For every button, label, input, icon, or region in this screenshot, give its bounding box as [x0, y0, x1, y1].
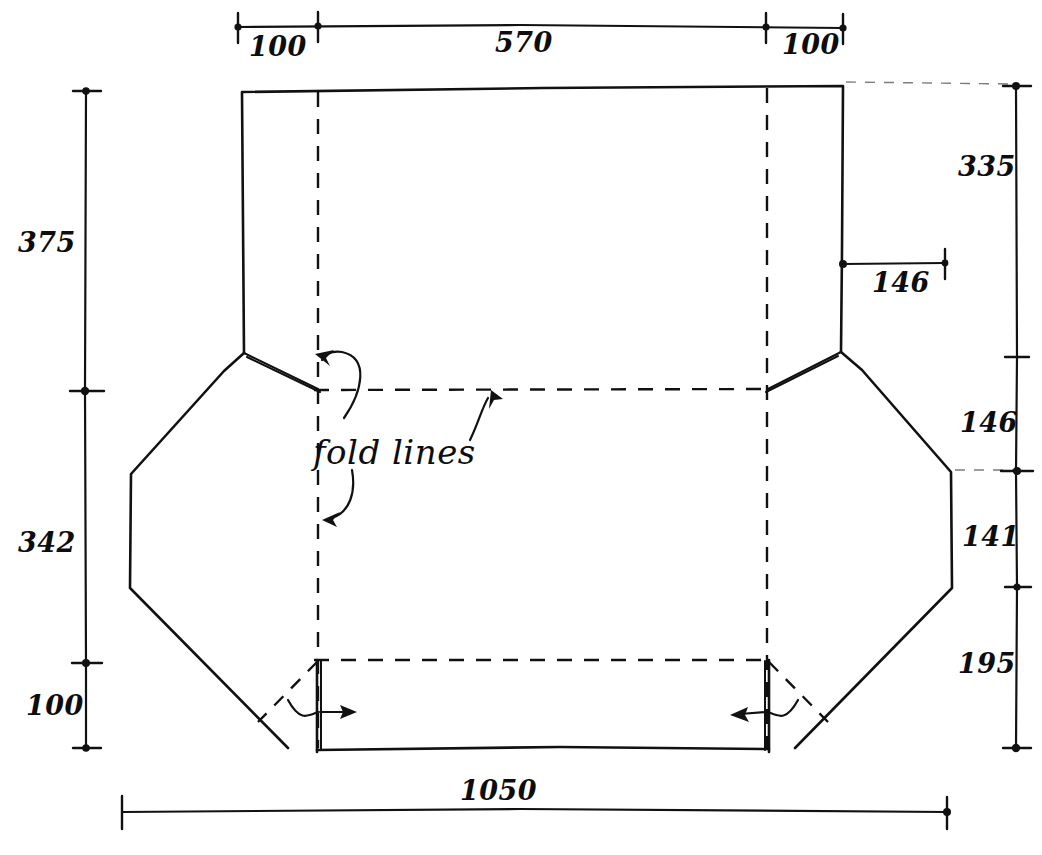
right-dim-extension-top [846, 82, 1014, 84]
wing-left-outline [130, 353, 288, 748]
fold-line-horizontal-upper [314, 389, 770, 390]
left-dim-dot-top [82, 87, 90, 95]
fold-line-diagonal-bottom-left [258, 662, 317, 722]
right-callout-dimension-line [843, 263, 945, 264]
notch-right-lower [766, 356, 838, 392]
bottom-dimension-line [122, 809, 947, 812]
left-dim-dot-mid-upper [81, 387, 89, 395]
fold-line-diagonal-bottom-right [769, 662, 828, 722]
dim-bottom-1050: 1050 [460, 775, 537, 806]
notch-left-upper [244, 353, 318, 389]
dim-left-375: 375 [18, 227, 76, 258]
right-callout-dot-left [839, 260, 847, 268]
dim-right-335: 335 [958, 151, 1016, 182]
left-dim-dot-mid-lower [82, 659, 90, 667]
dim-right-141: 141 [962, 521, 1020, 552]
fold-lines-leader-lower [332, 470, 353, 518]
right-callout-dot-right [942, 260, 949, 267]
bottom-right-fold-arrow-curve [768, 700, 798, 716]
fold-lines-label: fold lines [310, 432, 476, 472]
dim-top-right-100: 100 [782, 29, 840, 60]
technical-drawing-svg: fold lines 100 570 100 375 342 100 [0, 0, 1042, 855]
blank-outline-bottom-edge [317, 747, 769, 750]
fold-lines-arrowhead-right [489, 390, 503, 409]
bottom-dim-dot-right [943, 808, 951, 816]
top-dim-dot-right-end [839, 24, 846, 31]
drawing-canvas: fold lines 100 570 100 375 342 100 [0, 0, 1042, 855]
fold-lines-arrowhead-lower [322, 512, 340, 527]
dim-left-342: 342 [18, 527, 76, 558]
dim-right-146: 146 [960, 407, 1018, 438]
notch-right-upper [768, 352, 841, 389]
left-dimension-line [85, 91, 86, 748]
wing-right-outline [795, 352, 952, 748]
right-dim-dot-bottom [1012, 744, 1020, 752]
left-dim-dot-bottom [82, 744, 90, 752]
right-dim-dot-top [1012, 82, 1020, 90]
dim-right-callout-146: 146 [872, 267, 930, 298]
dim-top-left-100: 100 [249, 31, 307, 62]
top-dim-dot-left-end [234, 23, 241, 30]
right-dim-dot-146 [1013, 467, 1021, 475]
top-dim-dot-inner-right [762, 23, 769, 30]
dim-left-100: 100 [26, 690, 84, 721]
bottom-left-fold-arrow-curve [288, 700, 318, 716]
notch-left-lower [247, 357, 320, 392]
dim-right-195: 195 [958, 648, 1016, 679]
top-dim-dot-inner-left [314, 22, 321, 29]
right-dim-dot-141 [1013, 583, 1020, 590]
blank-outline-top-panel [242, 86, 843, 353]
dim-top-center-570: 570 [495, 27, 553, 58]
